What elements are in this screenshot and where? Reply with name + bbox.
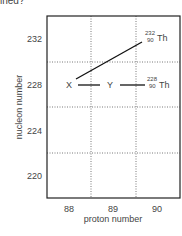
alpha-decay-line [76,42,142,79]
th232-symbol: Th [157,33,168,43]
x-tick-89: 89 [108,204,118,214]
point-x-label: X [66,80,72,90]
th232-atomic: 90 [147,37,154,43]
y-tick-220: 220 [27,171,42,181]
x-axis-label: proton number [84,214,143,224]
x-tick-90: 90 [152,204,162,214]
x-tick-88: 88 [64,204,74,214]
th228-atomic: 90 [149,83,156,89]
th228-mass: 228 [147,76,158,82]
y-tick-232: 232 [27,34,42,44]
decay-chart: 232 228 224 220 88 89 90 proton number n… [0,0,182,236]
y-tick-228: 228 [27,80,42,90]
grid [47,16,180,198]
point-y-label: Y [107,80,113,90]
th232-mass: 232 [145,30,156,36]
y-axis-label: nucleon number [14,75,24,140]
y-tick-224: 224 [27,126,42,136]
th228-symbol: Th [159,80,170,90]
